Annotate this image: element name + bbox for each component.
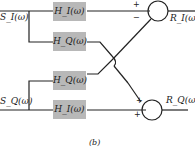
block-hq-bottom-label: H_Q(ω) xyxy=(53,71,86,90)
top-summer-plus: + xyxy=(133,0,140,9)
input-si-label: S_I(ω) xyxy=(0,12,29,22)
top-summer-minus: − xyxy=(133,13,140,22)
input-sq-label: S_Q(ω) xyxy=(0,96,32,106)
signal-lines xyxy=(0,0,195,148)
output-ri-label: R_I(ω) xyxy=(170,13,195,23)
output-rq-label: R_Q(ω) xyxy=(166,95,195,105)
figure-caption: (b) xyxy=(89,138,100,147)
bottom-summer-plus-2: + xyxy=(134,110,141,119)
block-hi-bottom-label: H_I(ω) xyxy=(53,100,86,119)
bottom-summer-plus-1: + xyxy=(136,96,143,105)
block-hq-top-label: H_Q(ω) xyxy=(53,32,86,51)
block-hi-top-label: H_I(ω) xyxy=(53,2,86,21)
